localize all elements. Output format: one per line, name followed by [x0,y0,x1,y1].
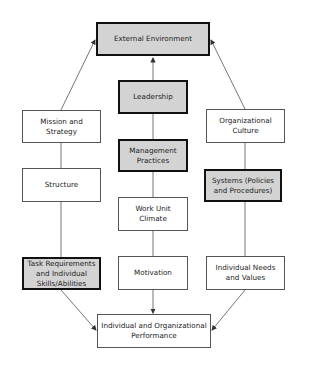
edge-needs-performance [212,290,245,330]
edge-mission-external [61,40,95,110]
node-label: Individual and Organizational Performanc… [100,321,208,341]
node-label: Task Requirements and Individual Skills/… [26,259,97,289]
node-task-requirements: Task Requirements and Individual Skills/… [22,257,101,290]
node-motivation: Motivation [118,256,188,290]
node-external-environment: External Environment [96,22,210,56]
edge-task-performance [61,290,96,330]
edge-culture-external [211,40,245,109]
node-label: Work Unit Climate [121,204,185,224]
node-label: Management Practices [122,146,184,166]
node-label: External Environment [114,34,192,44]
node-label: Systems (Policies and Procedures) [208,176,278,196]
node-label: Individual Needs and Values [209,263,282,283]
node-mission-strategy: Mission and Strategy [22,110,101,143]
node-systems: Systems (Policies and Procedures) [204,169,282,202]
node-organizational-culture: Organizational Culture [206,109,285,143]
node-label: Structure [45,180,78,190]
node-label: Leadership [133,92,173,102]
node-label: Mission and Strategy [25,117,98,137]
node-label: Organizational Culture [209,116,282,136]
node-work-unit-climate: Work Unit Climate [118,197,188,231]
node-leadership: Leadership [118,80,188,114]
node-individual-needs: Individual Needs and Values [206,256,285,290]
node-structure: Structure [22,168,101,202]
node-management-practices: Management Practices [118,139,188,172]
node-label: Motivation [134,268,172,278]
node-performance: Individual and Organizational Performanc… [97,314,211,348]
